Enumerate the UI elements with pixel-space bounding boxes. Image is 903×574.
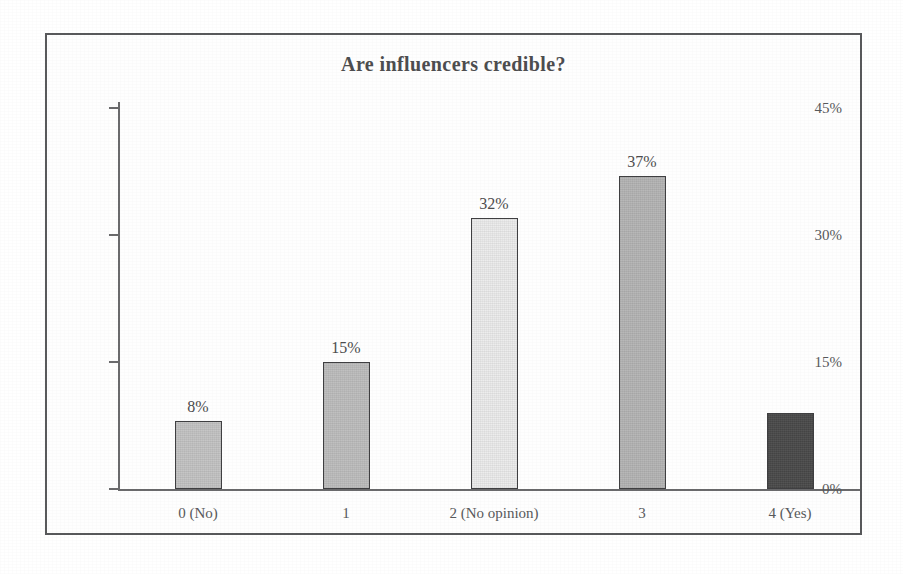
bar-group: 32%: [471, 108, 518, 489]
bar-value-label: 32%: [479, 195, 508, 213]
chart-title: Are influencers credible?: [47, 53, 860, 76]
bar[interactable]: [619, 176, 666, 489]
x-axis-category-label: 2 (No opinion): [449, 505, 538, 522]
y-axis-tick-3: [109, 107, 118, 109]
y-axis-tick-2: [109, 234, 118, 236]
y-axis-tick-1: [109, 361, 118, 363]
bar-group: 37%: [619, 108, 666, 489]
x-axis-category-label: 0 (No): [178, 505, 218, 522]
y-axis-tick-0: [109, 488, 118, 490]
bar-value-label: 37%: [627, 153, 656, 171]
figure-frame: Are influencers credible? 0%15%30%45% 8%…: [45, 33, 862, 535]
x-axis-line: [118, 489, 860, 491]
bars-layer: 8%15%32%37%: [118, 108, 858, 489]
bar-value-label: 15%: [331, 339, 360, 357]
bar[interactable]: [175, 421, 222, 489]
bar[interactable]: [767, 413, 814, 489]
x-axis-category-labels: 0 (No)12 (No opinion)34 (Yes): [118, 497, 860, 531]
plot-area: 0%15%30%45% 8%15%32%37%: [118, 108, 858, 489]
x-axis-category-label: 4 (Yes): [768, 505, 811, 522]
bar[interactable]: [471, 218, 518, 489]
bar-group: 15%: [323, 108, 370, 489]
scanned-page-background: Are influencers credible? 0%15%30%45% 8%…: [0, 0, 903, 574]
bar-group: [767, 108, 814, 489]
bar-value-label: 8%: [187, 398, 208, 416]
bar[interactable]: [323, 362, 370, 489]
x-axis-category-label: 1: [342, 505, 350, 522]
x-axis-category-label: 3: [638, 505, 646, 522]
bar-group: 8%: [175, 108, 222, 489]
